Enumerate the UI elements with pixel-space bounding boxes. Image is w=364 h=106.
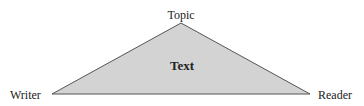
- topic-label: Topic: [167, 9, 194, 21]
- text-label: Text: [170, 60, 194, 72]
- reader-label: Reader: [318, 89, 352, 101]
- writer-label: Writer: [10, 89, 41, 101]
